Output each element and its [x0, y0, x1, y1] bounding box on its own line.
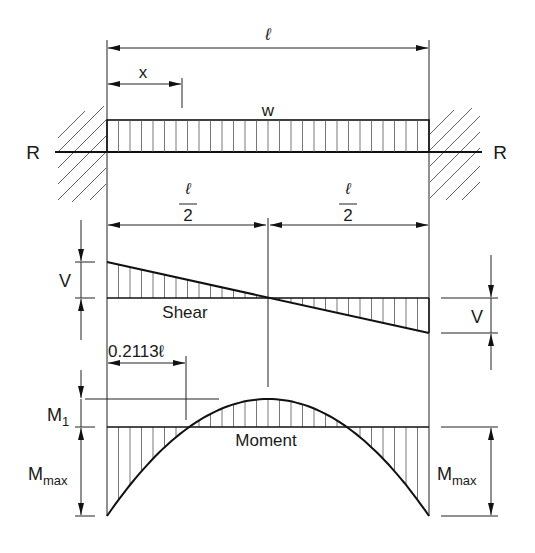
- inflection-label: 0.2113ℓ: [108, 342, 165, 361]
- shear-right-label: V: [471, 307, 483, 327]
- right-wall-hatch: [430, 108, 480, 200]
- mmax-left-label: Mmax: [28, 464, 68, 488]
- m1-label: M1: [47, 405, 69, 429]
- half-span-right-num: ℓ: [344, 180, 351, 197]
- half-span-dimensions: ℓ 2 ℓ 2: [107, 152, 429, 516]
- half-span-left-num: ℓ: [184, 180, 191, 197]
- shear-left-label: V: [59, 271, 71, 291]
- inflection-dimension: 0.2113ℓ: [108, 342, 186, 420]
- left-wall-hatch: [58, 106, 106, 202]
- moment-diagram: Moment: [85, 399, 429, 516]
- half-span-left-den: 2: [183, 206, 192, 225]
- load-label: w: [261, 101, 275, 120]
- reaction-left-label: R: [26, 142, 40, 163]
- span-label: ℓ: [264, 25, 271, 44]
- distributed-load: w: [107, 101, 429, 152]
- reaction-right-label: R: [493, 142, 507, 163]
- moment-left-dimension: M1 Mmax: [28, 370, 95, 516]
- mmax-right-label: Mmax: [437, 464, 477, 488]
- half-span-right-den: 2: [343, 206, 352, 225]
- shear-left-dimension: V: [59, 220, 95, 340]
- shear-title: Shear: [162, 303, 208, 322]
- x-label: x: [139, 63, 148, 82]
- x-dimension: x: [108, 63, 182, 108]
- shear-right-dimension: V: [441, 255, 498, 370]
- moment-title: Moment: [235, 431, 297, 450]
- moment-right-dimension: Mmax: [437, 427, 498, 516]
- beam-diagram: ℓ x R R w: [0, 0, 535, 553]
